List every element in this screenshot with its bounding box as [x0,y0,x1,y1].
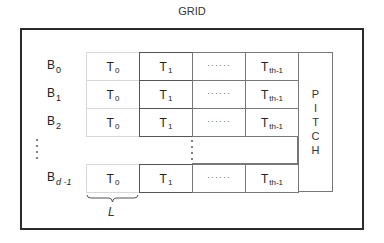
cell-tth-1: Tth-1 [245,108,299,137]
brace-icon [86,194,139,204]
cell-ellipsis: ······ [192,80,246,109]
cell-t1: T1 [139,164,193,193]
length-label: L [108,205,115,219]
pitch-column: P I T C H [298,52,333,192]
cell-t0: T0 [86,164,140,193]
pitch-letter: C [312,129,320,143]
cell-t1: T1 [139,108,193,137]
cell-t1: T1 [139,80,193,109]
cell-t0: T0 [86,52,140,81]
cell-tth-1: Tth-1 [245,52,299,81]
cell-tth-1: Tth-1 [245,80,299,109]
pitch-letter: I [314,101,317,115]
row-label-b1: B1 [47,86,61,100]
cell-ellipsis: ······ [192,108,246,137]
pitch-letter: H [312,143,320,157]
grid-title: GRID [0,5,384,17]
gap-row-box [192,136,298,164]
row-label-b2: B2 [47,114,61,128]
cell-t1: T1 [139,52,193,81]
pitch-letter: P [312,87,319,101]
cell-t0: T0 [86,108,140,137]
vertical-ellipsis-center [191,140,193,164]
row-label-bd-1: Bd -1 [47,170,72,184]
pitch-letter: T [312,115,319,129]
cell-t0: T0 [86,80,140,109]
vertical-ellipsis-left [36,139,38,163]
cell-ellipsis: ······ [192,164,246,193]
cell-ellipsis: ······ [192,52,246,81]
row-label-b0: B0 [47,58,61,72]
cell-tth-1: Tth-1 [245,164,299,193]
